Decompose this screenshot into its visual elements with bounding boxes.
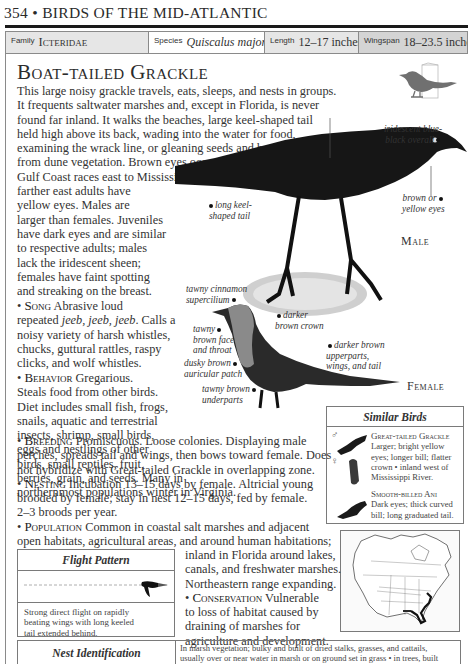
nest-identification-title: Nest Identification [52,647,141,659]
running-head: 354 • BIRDS OF THE MID-ATLANTIC [4,4,268,22]
callout-face: tawny brown face and throat [193,324,234,356]
song-phrase: jeeb, jeeb, jeeb [62,313,136,327]
flight-path-graphic [18,571,174,603]
similar-birds-title: Similar Birds [363,411,427,423]
conservation-label: Conservation [192,590,262,605]
callout-auricular: dusky brown auricular patch [184,358,242,379]
similar-bird-name: Smooth-billed Ani [371,489,454,499]
nest-identification-box: Nest Identification In marsh vegetation;… [17,640,461,664]
leader-dot [436,138,440,142]
leader-dot [209,204,213,208]
length-label: Length [270,36,294,45]
wingspan-cell: Wingspan 18–23.5 inches [359,32,467,53]
similar-birds-thumbnails-icon [337,431,369,521]
species-label: Species [154,36,182,45]
range-map [340,530,460,632]
similar-birds-box: Similar Birds ♂ ♀ Great-tailed Grackle L… [326,406,464,524]
similar-bird-entry: Smooth-billed Ani Dark eyes; thick curve… [371,489,454,520]
flying-bird-icon [18,571,174,603]
wingspan-label: Wingspan [364,36,400,45]
callout-supercilium: tawny cinnamon supercilium [186,284,247,305]
flight-pattern-box: Flight Pattern Strong direct flight on r… [17,549,175,637]
nesting-label: Nesting [24,476,65,491]
callout-upperparts: darker brown upperparts, wings, and tail [326,340,385,372]
flight-pattern-description: Strong direct flight on rapidly beating … [18,603,174,642]
similar-bird-name: Great-tailed Grackle [371,431,451,441]
left-margin-rule [5,54,6,664]
callout-eyes: brown or yellow eyes [402,193,445,214]
breeding-nesting-population-block: • Breeding Promiscuous. Loose colonies. … [17,434,332,548]
callout-iridescent-overall: iridescent blue- black overall [384,124,442,145]
callout-crown: darker brown crown [275,310,324,331]
song-label: Song [24,298,51,313]
family-value: Icteridae [39,35,88,50]
perching-bird-silhouette-icon [395,62,465,102]
callout-long-keel-tail: long keel- shaped tail [207,200,252,221]
flight-pattern-title: Flight Pattern [62,554,129,566]
species-cell: Species Quiscalus major [149,32,265,53]
species-title: Boat-tailed Grackle [17,60,208,85]
family-cell: Family Icteridae [6,32,149,53]
leader-dot [328,344,332,348]
callout-underparts: tawny brown underparts [202,384,258,405]
family-label: Family [11,36,35,45]
species-value: Quiscalus major [186,35,265,50]
leader-dot [232,298,236,302]
wingspan-value: 18–23.5 inches [404,35,467,50]
breeding-label: Breeding [24,433,72,448]
info-bar: Family Icteridae Species Quiscalus major… [5,31,468,54]
intro-line: This large noisy grackle travels, eats, … [17,84,347,98]
male-label: Male [401,234,429,249]
behavior-label: Behavior [24,370,72,385]
population-conservation-block: inland in Florida around lakes, canals, … [185,548,341,648]
nest-identification-text: In marsh vegetation; bulky and built of … [176,641,460,664]
female-label: Female [407,379,444,394]
similar-bird-entry: Great-tailed Grackle Larger; bright yell… [371,431,451,482]
leader-dot [252,388,256,392]
leader-dot [277,314,281,318]
leader-dot [233,362,237,366]
intro-line: It frequents saltwater marshes and, exce… [17,98,347,112]
leader-dot [217,328,221,332]
leader-dot [439,197,443,201]
length-cell: Length 12–17 inches [265,32,359,53]
song-section: • Song Abrasive loud repeated jeeb, jeeb… [17,299,175,370]
length-value: 12–17 inches [298,35,359,50]
population-label: Population [24,519,82,534]
header-rule [5,25,468,28]
